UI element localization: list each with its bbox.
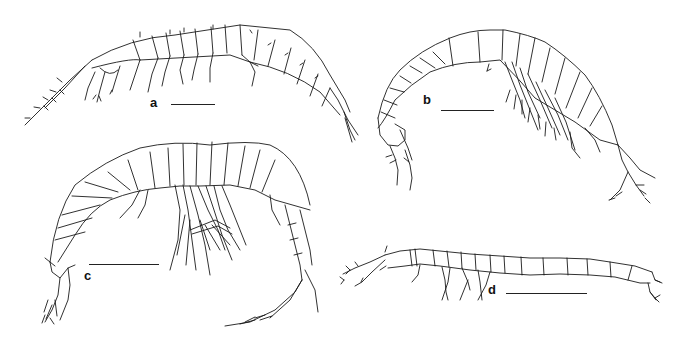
figure-plate: a b c d — [0, 0, 690, 345]
specimen-a — [25, 25, 358, 142]
specimen-d — [340, 246, 662, 302]
panel-label-d: d — [488, 283, 496, 296]
panel-label-a: a — [150, 96, 157, 109]
panel-label-c: c — [84, 269, 91, 282]
scale-bar-a — [171, 104, 215, 105]
scale-bar-b — [441, 110, 494, 111]
specimen-b — [378, 30, 655, 203]
panel-label-b: b — [423, 93, 431, 106]
scale-bar-c — [89, 264, 159, 265]
specimen-c — [42, 142, 318, 326]
scale-bar-d — [506, 293, 587, 294]
